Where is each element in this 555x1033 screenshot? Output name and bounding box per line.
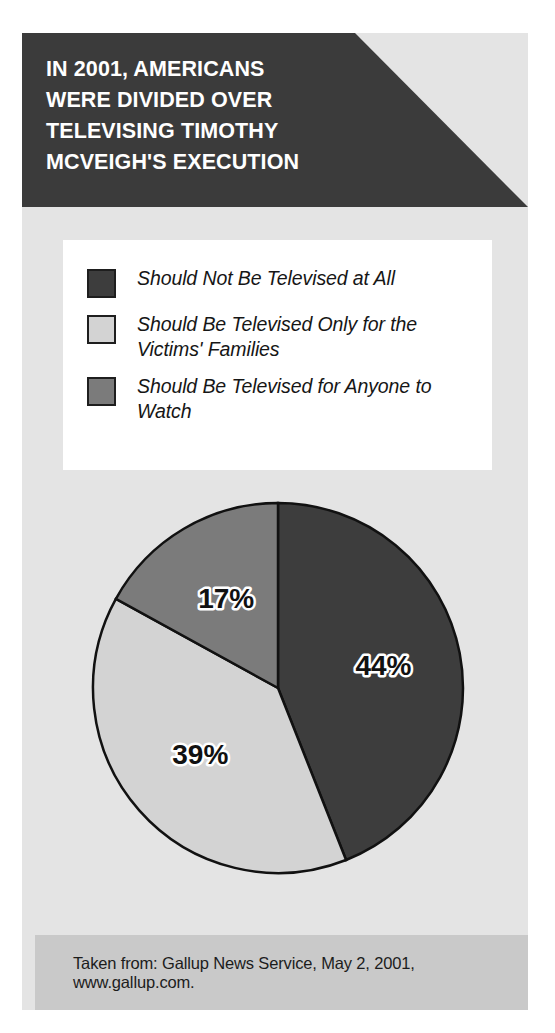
legend-item-label: Should Be Televised Only for the Victims… — [137, 312, 474, 362]
chart-legend: Should Not Be Televised at All Should Be… — [63, 240, 492, 470]
pie-slice-label: 44% — [355, 650, 411, 681]
legend-swatch-icon — [87, 269, 116, 298]
source-band: Taken from: Gallup News Service, May 2, … — [35, 935, 528, 1010]
page-title: IN 2001, AMERICANS WERE DIVIDED OVER TEL… — [46, 54, 366, 178]
legend-item-label: Should Not Be Televised at All — [137, 266, 395, 291]
source-attribution: Taken from: Gallup News Service, May 2, … — [73, 954, 528, 992]
legend-item-not-televised[interactable]: Should Not Be Televised at All — [87, 266, 474, 298]
legend-swatch-icon — [87, 377, 116, 406]
legend-item-anyone-to-watch[interactable]: Should Be Televised for Anyone to Watch — [87, 374, 474, 424]
pie-slice-label: 39% — [172, 739, 228, 770]
legend-swatch-icon — [87, 315, 116, 344]
infographic-card: IN 2001, AMERICANS WERE DIVIDED OVER TEL… — [22, 33, 528, 1010]
pie-slice-label: 17% — [198, 583, 254, 614]
legend-item-label: Should Be Televised for Anyone to Watch — [137, 374, 474, 424]
pie-chart-svg: 44%39%17% — [90, 500, 466, 876]
legend-item-victims-families[interactable]: Should Be Televised Only for the Victims… — [87, 312, 474, 362]
pie-chart: 44%39%17% — [90, 500, 466, 876]
header-banner: IN 2001, AMERICANS WERE DIVIDED OVER TEL… — [22, 33, 528, 207]
